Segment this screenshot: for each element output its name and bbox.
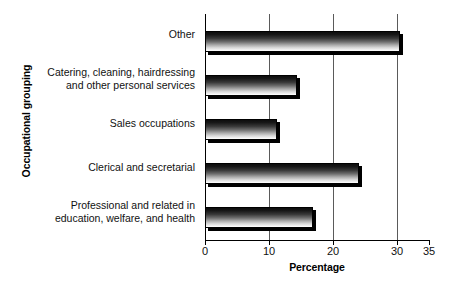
y-axis-tick-label: Professional and related in education, w…	[0, 199, 195, 225]
y-axis-tick-label: Sales occupations	[0, 117, 195, 130]
x-axis-tick-label: 35	[409, 245, 449, 257]
y-axis-tick-labels: Other Catering, cleaning, hairdressing a…	[0, 14, 199, 240]
bar-catering-cleaning-hairdressing[interactable]	[205, 75, 297, 96]
x-axis-tick-label: 0	[185, 245, 225, 257]
bar-sales-occupations[interactable]	[205, 119, 277, 140]
x-axis-tick-label: 10	[249, 245, 289, 257]
bar-professional-and-related[interactable]	[205, 207, 313, 228]
plot-area	[205, 14, 429, 240]
y-axis-tick-label: Catering, cleaning, hairdressing and oth…	[0, 66, 195, 92]
x-axis-line	[205, 240, 429, 241]
bar-clerical-and-secretarial[interactable]	[205, 163, 359, 184]
bar-other[interactable]	[205, 31, 400, 52]
x-axis-tick-label: 20	[313, 245, 353, 257]
y-axis-tick-label: Clerical and secretarial	[0, 161, 195, 174]
bar-chart: Occupational grouping Other Catering, cl…	[0, 0, 451, 281]
x-axis-title: Percentage	[205, 261, 429, 273]
y-axis-tick-label: Other	[0, 28, 195, 41]
